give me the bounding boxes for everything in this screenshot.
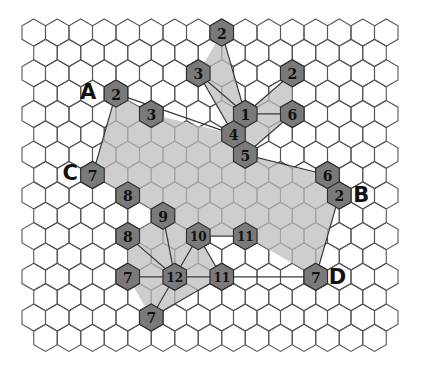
grid-hex bbox=[34, 324, 58, 351]
grid-hex bbox=[46, 263, 70, 290]
grid-hex bbox=[57, 202, 81, 229]
grid-hex bbox=[81, 243, 105, 270]
grid-hex bbox=[34, 80, 58, 107]
hex-number: 6 bbox=[323, 168, 333, 184]
grid-hex bbox=[363, 39, 387, 66]
hex-number: 8 bbox=[123, 229, 133, 245]
hex-number: 2 bbox=[111, 87, 121, 103]
hex-number: 2 bbox=[287, 66, 297, 82]
grid-hex bbox=[34, 243, 58, 270]
grid-hex bbox=[316, 324, 340, 351]
grid-hex bbox=[46, 100, 70, 127]
grid-hex bbox=[222, 324, 246, 351]
grid-hex bbox=[351, 263, 375, 290]
grid-hex bbox=[81, 202, 105, 229]
grid-hex bbox=[69, 100, 93, 127]
grid-hex bbox=[245, 324, 269, 351]
grid-hex bbox=[257, 19, 281, 46]
grid-hex bbox=[69, 263, 93, 290]
grid-hex bbox=[93, 304, 117, 331]
hex-number: 7 bbox=[146, 310, 156, 326]
grid-hex bbox=[104, 324, 128, 351]
grid-hex bbox=[210, 304, 234, 331]
grid-hex bbox=[257, 60, 281, 87]
grid-hex bbox=[69, 19, 93, 46]
grid-hex bbox=[281, 304, 305, 331]
grid-hex bbox=[22, 182, 46, 209]
grid-hex bbox=[46, 60, 70, 87]
grid-hex bbox=[46, 182, 70, 209]
grid-hex bbox=[163, 60, 187, 87]
hex-number: 7 bbox=[88, 168, 98, 184]
hex-number: 5 bbox=[240, 148, 250, 164]
grid-hex bbox=[339, 324, 363, 351]
grid-hex bbox=[187, 100, 211, 127]
grid-hex bbox=[339, 80, 363, 107]
grid-hex bbox=[140, 19, 164, 46]
grid-hex bbox=[328, 19, 352, 46]
grid-hex bbox=[93, 223, 117, 250]
grid-hex bbox=[316, 39, 340, 66]
grid-hex bbox=[22, 304, 46, 331]
hex-map-diagram: 23232164562789810117121177 ABCD bbox=[0, 0, 421, 389]
hex-number: 2 bbox=[217, 26, 227, 42]
hex-number: 12 bbox=[166, 271, 183, 285]
grid-hex bbox=[140, 60, 164, 87]
grid-hex bbox=[351, 19, 375, 46]
grid-hex bbox=[375, 304, 399, 331]
hex-number: 6 bbox=[287, 107, 297, 123]
grid-hex bbox=[34, 39, 58, 66]
grid-hex bbox=[304, 19, 328, 46]
grid-hex bbox=[316, 121, 340, 148]
grid-hex bbox=[304, 100, 328, 127]
grid-hex bbox=[22, 263, 46, 290]
grid-hex bbox=[22, 60, 46, 87]
grid-hex bbox=[351, 223, 375, 250]
grid-hex bbox=[375, 141, 399, 168]
hex-number: 1 bbox=[240, 107, 250, 123]
hex-number: 4 bbox=[229, 127, 239, 143]
grid-hex bbox=[281, 19, 305, 46]
grid-hex bbox=[187, 304, 211, 331]
grid-hex bbox=[234, 19, 258, 46]
hex-number: 2 bbox=[334, 188, 344, 204]
hex-map-svg: 23232164562789810117121177 ABCD bbox=[0, 0, 421, 389]
grid-hex bbox=[81, 121, 105, 148]
grid-hex bbox=[351, 100, 375, 127]
grid-hex bbox=[69, 304, 93, 331]
grid-hex bbox=[128, 39, 152, 66]
grid-hex bbox=[57, 324, 81, 351]
grid-hex bbox=[363, 121, 387, 148]
grid-hex bbox=[328, 223, 352, 250]
grid-hex bbox=[116, 304, 140, 331]
grid-hex bbox=[375, 60, 399, 87]
grid-hex bbox=[175, 324, 199, 351]
grid-hex bbox=[269, 284, 293, 311]
grid-hex bbox=[339, 39, 363, 66]
grid-hex bbox=[328, 60, 352, 87]
hex-number: 3 bbox=[193, 66, 203, 82]
grid-hex bbox=[116, 19, 140, 46]
grid-hex bbox=[46, 304, 70, 331]
grid-hex bbox=[257, 304, 281, 331]
grid-hex bbox=[22, 141, 46, 168]
grid-hex bbox=[163, 19, 187, 46]
grid-hex bbox=[363, 80, 387, 107]
grid-hex bbox=[245, 284, 269, 311]
hex-number: 11 bbox=[237, 230, 254, 244]
grid-hex bbox=[46, 19, 70, 46]
grid-hex bbox=[34, 121, 58, 148]
grid-hex bbox=[234, 60, 258, 87]
grid-hex bbox=[328, 304, 352, 331]
grid-hex bbox=[234, 304, 258, 331]
hex-number: 7 bbox=[311, 270, 321, 286]
grid-hex bbox=[363, 284, 387, 311]
grid-hex bbox=[245, 39, 269, 66]
grid-hex bbox=[57, 121, 81, 148]
grid-hex bbox=[351, 304, 375, 331]
grid-hex bbox=[375, 182, 399, 209]
grid-hex bbox=[46, 223, 70, 250]
grid-hex bbox=[375, 19, 399, 46]
corner-label-d: D bbox=[329, 265, 346, 289]
grid-hex bbox=[93, 263, 117, 290]
